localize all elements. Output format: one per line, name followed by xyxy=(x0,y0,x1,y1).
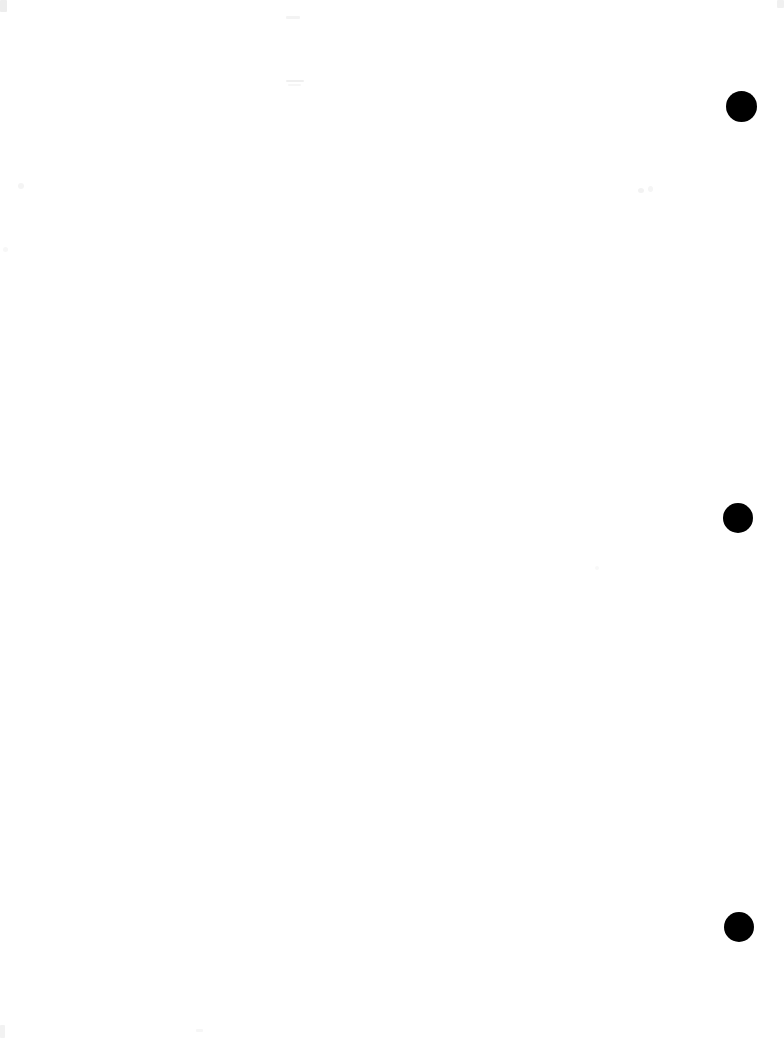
punch-hole-bottom xyxy=(724,912,754,942)
punch-hole-top xyxy=(726,91,757,122)
page-content-area xyxy=(0,0,784,1038)
scanned-page xyxy=(0,0,784,1038)
punch-hole-middle xyxy=(723,503,753,533)
